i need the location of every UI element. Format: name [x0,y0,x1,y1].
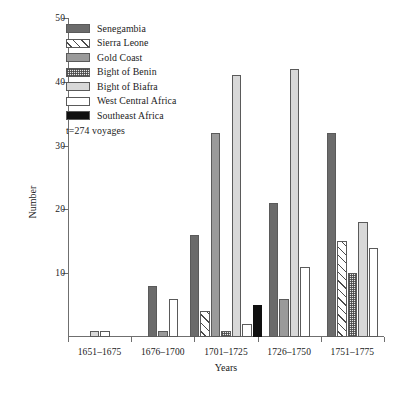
x-tick [384,337,385,342]
bar [190,235,200,337]
bar [290,69,300,337]
y-axis-title-text: Number [27,186,38,219]
bar-chart: Number 1020304050 1651–16751676–17001701… [0,0,397,404]
x-axis-title-text: Years [215,362,237,373]
bar [300,267,310,337]
legend-item[interactable]: Sierra Leone [66,37,176,50]
bar [358,222,368,337]
bar [327,133,337,337]
legend-item[interactable]: Southeast Africa [66,109,176,122]
legend-item[interactable]: Gold Coast [66,51,176,64]
bar-group [321,18,384,337]
legend-swatch-icon [66,53,90,62]
bar [211,133,221,337]
bar [148,286,158,337]
legend-item-label: Southeast Africa [97,111,164,121]
legend-item[interactable]: Senegambia [66,22,176,35]
x-tick [131,337,132,342]
bar [100,331,110,337]
y-tick-label: 30 [55,141,65,151]
y-tick-label: 40 [55,77,65,87]
legend-item[interactable]: Bight of Benin [66,66,176,79]
legend-item-label: Sierra Leone [97,38,149,48]
legend-swatch-icon [66,24,90,33]
legend-item-label: Bight of Biafra [97,82,158,92]
bar [158,331,168,337]
legend-swatch-icon [66,111,90,120]
x-tick [258,337,259,342]
legend-item-label: Gold Coast [97,53,142,63]
bar [279,299,289,337]
legend-item[interactable]: West Central Africa [66,95,176,108]
bar [221,331,231,337]
x-tick [194,337,195,342]
bar [337,241,347,337]
x-tick-label: 1651–1675 [78,347,122,357]
bar [232,75,242,337]
x-tick-label: 1726–1750 [267,347,311,357]
legend-swatch-icon [66,39,90,48]
bar [90,331,100,337]
x-axis-title: Years [68,362,384,373]
x-tick-label: 1751–1775 [331,347,375,357]
legend-item-label: West Central Africa [97,96,176,106]
chart-legend: SenegambiaSierra LeoneGold CoastBight of… [66,22,176,136]
y-tick-label: 20 [55,204,65,214]
x-tick [68,337,69,342]
voyage-count-note: t=274 voyages [66,126,176,136]
bar [242,324,252,337]
bar [200,311,210,337]
legend-item-label: Senegambia [97,24,146,34]
bar-group [258,18,321,337]
x-tick [321,337,322,342]
legend-swatch-icon [66,97,90,106]
y-tick-label: 50 [55,13,65,23]
legend-item-label: Bight of Benin [97,67,157,77]
y-tick-label: 10 [55,268,65,278]
bar [369,248,379,337]
legend-item[interactable]: Bight of Biafra [66,80,176,93]
legend-swatch-icon [66,82,90,91]
legend-swatch-icon [66,68,90,77]
x-tick-label: 1701–1725 [204,347,248,357]
x-tick-label: 1676–1700 [141,347,185,357]
bar [348,273,358,337]
y-axis-title: Number [27,186,38,219]
bar [169,299,179,337]
bar [269,203,279,337]
bar-group [194,18,257,337]
